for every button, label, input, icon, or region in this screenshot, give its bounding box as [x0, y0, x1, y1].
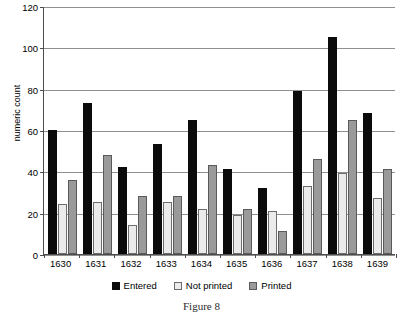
x-tick-mark — [396, 254, 397, 258]
bar-group — [115, 7, 150, 254]
figure-caption: Figure 8 — [0, 300, 403, 312]
bar — [93, 202, 102, 254]
x-axis-tick-label: 1630 — [43, 258, 78, 269]
y-tick-label: 40 — [27, 167, 38, 178]
bar — [208, 165, 217, 254]
bar — [258, 188, 267, 254]
bar — [163, 202, 172, 254]
bar — [118, 167, 127, 254]
bar — [268, 211, 277, 254]
bar — [313, 159, 322, 254]
x-axis-tick-label: 1631 — [78, 258, 113, 269]
bar — [233, 215, 242, 254]
legend-label: Not printed — [186, 280, 232, 291]
legend-label: Printed — [261, 280, 291, 291]
bar — [328, 37, 337, 254]
y-tick-label: 0 — [33, 250, 38, 261]
bar — [188, 120, 197, 254]
bar — [383, 169, 392, 254]
y-tick-mark — [40, 214, 44, 215]
y-tick-label: 60 — [27, 126, 38, 137]
x-axis-tick-label: 1633 — [149, 258, 184, 269]
bar-groups — [45, 7, 395, 254]
bar-group — [290, 7, 325, 254]
y-tick-label: 100 — [22, 43, 38, 54]
legend-swatch-icon — [112, 282, 120, 290]
y-tick-mark — [40, 7, 44, 8]
legend-item[interactable]: Printed — [249, 280, 291, 291]
x-axis-tick-label: 1634 — [184, 258, 219, 269]
bar-group — [325, 7, 360, 254]
bar — [223, 169, 232, 254]
y-tick-label: 120 — [22, 2, 38, 13]
x-axis-labels: 1630163116321633163416351636163716381639 — [43, 258, 395, 269]
legend-item[interactable]: Not printed — [174, 280, 232, 291]
bar — [278, 231, 287, 254]
bar — [68, 180, 77, 254]
legend-label: Entered — [124, 280, 157, 291]
bar-group — [45, 7, 80, 254]
bar — [83, 103, 92, 254]
bar — [128, 225, 137, 254]
bar — [173, 196, 182, 254]
chart-legend: EnteredNot printedPrinted — [0, 280, 403, 291]
legend-swatch-icon — [249, 282, 257, 290]
bar — [153, 144, 162, 254]
y-tick-label: 80 — [27, 84, 38, 95]
x-axis-tick-label: 1636 — [254, 258, 289, 269]
y-tick-mark — [40, 172, 44, 173]
y-tick-label: 20 — [27, 208, 38, 219]
y-tick-mark — [40, 131, 44, 132]
x-axis-tick-label: 1632 — [113, 258, 148, 269]
bar-group — [220, 7, 255, 254]
figure-8-chart: numeric count 020406080100120 1630163116… — [0, 0, 403, 316]
legend-item[interactable]: Entered — [112, 280, 157, 291]
bar-group — [255, 7, 290, 254]
bar-group — [150, 7, 185, 254]
bar — [373, 198, 382, 254]
x-axis-tick-label: 1639 — [360, 258, 395, 269]
bar — [243, 209, 252, 254]
bar — [338, 173, 347, 254]
legend-swatch-icon — [174, 282, 182, 290]
x-axis-tick-label: 1638 — [325, 258, 360, 269]
bar — [303, 186, 312, 254]
bar — [293, 91, 302, 254]
x-axis-tick-label: 1637 — [289, 258, 324, 269]
bar — [138, 196, 147, 254]
bar — [348, 120, 357, 254]
bar — [363, 113, 372, 254]
y-tick-mark — [40, 90, 44, 91]
bar — [58, 204, 67, 254]
y-axis-title: numeric count — [12, 58, 22, 168]
bar — [198, 209, 207, 254]
bar-group — [185, 7, 220, 254]
bar-group — [360, 7, 395, 254]
bar — [103, 155, 112, 254]
y-tick-mark — [40, 48, 44, 49]
plot-area: 020406080100120 — [43, 7, 395, 255]
bar — [48, 130, 57, 254]
bar-group — [80, 7, 115, 254]
x-axis-tick-label: 1635 — [219, 258, 254, 269]
